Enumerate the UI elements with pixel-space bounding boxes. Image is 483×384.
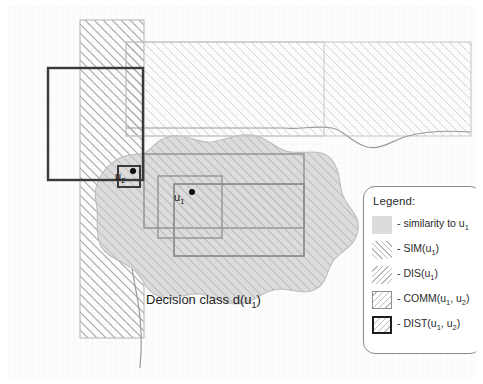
diagram-page: u2 u1 Decision class d(u1) Legend: - sim… <box>8 6 476 378</box>
comm-rect-lower <box>174 184 304 256</box>
point-sub-u1: 1 <box>180 197 184 206</box>
region-overlap-left <box>126 42 144 136</box>
region-sim-top-band <box>126 42 471 136</box>
decision-class-text: Decision class d(u <box>146 292 252 307</box>
point-sub-u2: 2 <box>121 176 125 185</box>
legend-text-comm: - COMM(u <box>397 292 446 304</box>
legend-label-dist: - DIST(u1, u2) <box>397 317 460 332</box>
legend-label-sim: - SIM(u1) <box>397 242 439 257</box>
legend-text-sim: - SIM(u <box>397 242 431 254</box>
comm-box-icon <box>372 291 392 309</box>
legend-tail-dist: , u <box>441 317 453 329</box>
legend-item-dis: - DIS(u1) <box>372 263 476 286</box>
point-label-u1: u1 <box>174 191 184 206</box>
figure-canvas: u2 u1 Decision class d(u1) Legend: - sim… <box>0 0 483 384</box>
legend-tail2-dist: ) <box>457 317 461 329</box>
dist-box-icon <box>372 316 392 334</box>
point-label-u2: u2 <box>115 170 125 185</box>
legend-tail-sim: ) <box>436 242 440 254</box>
legend-text-dist: - DIST(u <box>397 317 437 329</box>
legend-sub-similarity: 1 <box>465 223 469 232</box>
legend-box: Legend: - similarity to u1 - SIM(u1) - D… <box>363 186 476 354</box>
point-dot-u1 <box>189 189 195 195</box>
legend-text-similarity: - similarity to u <box>397 217 465 229</box>
legend-item-sim: - SIM(u1) <box>372 238 476 261</box>
legend-label-comm: - COMM(u1, u2) <box>397 292 470 307</box>
legend-title: Legend: <box>373 195 476 207</box>
point-dot-u2 <box>130 168 136 174</box>
legend-label-dis: - DIS(u1) <box>397 267 438 282</box>
sim-hatch-icon <box>372 241 392 259</box>
legend-tail2-comm: ) <box>466 292 470 304</box>
legend-tail-dis: ) <box>434 267 438 279</box>
decision-class-caption: Decision class d(u1) <box>146 292 261 310</box>
legend-item-dist: - DIST(u1, u2) <box>372 313 476 336</box>
legend-item-similarity: - similarity to u1 <box>372 213 476 236</box>
legend-tail-comm: , u <box>450 292 462 304</box>
legend-label-similarity: - similarity to u1 <box>397 217 469 232</box>
dis-hatch-icon <box>372 266 392 284</box>
decision-class-tail: ) <box>257 292 261 307</box>
legend-item-comm: - COMM(u1, u2) <box>372 288 476 311</box>
gray-swatch-icon <box>372 216 392 234</box>
legend-text-dis: - DIS(u <box>397 267 430 279</box>
